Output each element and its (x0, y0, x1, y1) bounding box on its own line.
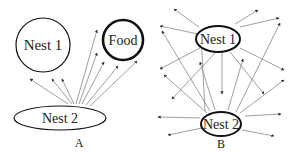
panel-a-nest-2-label: Nest 2 (42, 111, 78, 126)
panel-b-nest-2-label: Nest 2 (203, 117, 239, 132)
panel-b-nest-2: Nest 2 (201, 112, 241, 136)
panel-a-nest-1: Nest 1 (16, 18, 70, 72)
panel-a-nest-1-label: Nest 1 (24, 37, 63, 53)
panel-b: Nest 1 Nest 2 B (158, 9, 284, 151)
panel-a: Nest 1 Food Nest 2 A (14, 18, 143, 150)
panel-a-nest-2: Nest 2 (14, 106, 106, 130)
panel-b-caption: B (217, 137, 225, 151)
panel-b-nest-1: Nest 1 (196, 26, 240, 52)
panel-a-food: Food (103, 20, 143, 60)
panel-a-caption: A (75, 136, 84, 150)
panel-b-nest-1-label: Nest 1 (200, 32, 236, 47)
panel-a-food-label: Food (109, 33, 138, 48)
diagram: Nest 1 Food Nest 2 A (0, 0, 295, 153)
